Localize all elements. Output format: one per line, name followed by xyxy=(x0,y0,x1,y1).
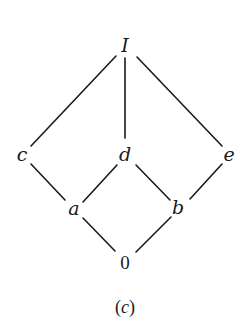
edge-d-b xyxy=(136,165,170,200)
hasse-diagram: I c d e a b 0 (c) xyxy=(0,0,248,319)
edge-d-a xyxy=(83,165,117,202)
node-b: b xyxy=(172,196,184,218)
edge-b-0 xyxy=(136,217,171,252)
figure-caption: (c) xyxy=(115,297,135,318)
node-0: 0 xyxy=(120,252,130,273)
edge-I-c xyxy=(31,56,116,146)
edge-a-0 xyxy=(83,218,115,251)
node-I: I xyxy=(120,34,129,56)
node-e: e xyxy=(223,143,234,165)
node-a: a xyxy=(68,197,79,219)
caption-letter: c xyxy=(121,297,129,317)
node-d: d xyxy=(119,143,131,165)
edge-e-b xyxy=(190,164,222,199)
edge-c-a xyxy=(31,164,65,200)
node-c: c xyxy=(17,143,28,165)
edge-I-e xyxy=(137,57,222,146)
caption-close-paren: ) xyxy=(129,297,135,318)
